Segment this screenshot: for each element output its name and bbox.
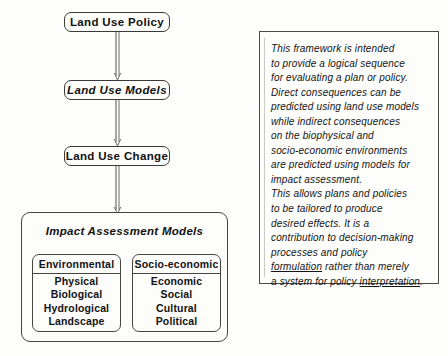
category-box-socio-economic: Socio-economic Economic Social Cultural …	[132, 254, 221, 332]
category-item: Cultural	[156, 302, 197, 315]
note-line: Direct consequences can be	[271, 86, 433, 101]
flow-node-land-use-policy: Land Use Policy	[64, 12, 170, 32]
impact-assessment-models-title: Impact Assessment Models	[22, 225, 227, 237]
flow-node-label: Land Use Policy	[70, 16, 164, 28]
category-item: Economic	[151, 275, 202, 288]
connector-change-to-impact	[106, 166, 128, 216]
connector-policy-to-models	[106, 32, 128, 82]
category-items-environmental: Physical Biological Hydrological Landsca…	[33, 274, 120, 331]
note-line: socio-economic environments	[271, 144, 433, 159]
category-items-socio-economic: Economic Social Cultural Political	[133, 274, 220, 331]
note-line: to provide a logical sequence	[271, 57, 433, 72]
category-item: Hydrological	[44, 302, 109, 315]
category-item: Landscape	[48, 315, 104, 328]
flow-node-label: Land Use Change	[66, 150, 168, 162]
note-line: processes and policy	[271, 246, 433, 261]
category-header-environmental: Environmental	[33, 255, 120, 274]
note-line: impact assessment.	[271, 173, 433, 188]
note-line: for evaluating a plan or policy.	[271, 71, 433, 86]
note-line-tail: .	[420, 276, 423, 287]
category-item: Social	[161, 288, 193, 301]
note-emphasis-formulation: formulation	[271, 261, 322, 272]
note-line-head: a system for policy	[271, 276, 360, 287]
diagram-canvas: Land Use Policy Land Use Models Land Use…	[0, 0, 448, 356]
flow-node-land-use-models: Land Use Models	[64, 80, 170, 100]
note-emphasis-interpretation: interpretation	[360, 276, 420, 287]
note-line: This allows plans and policies	[271, 187, 433, 202]
note-line-interpretation: a system for policy interpretation.	[271, 275, 433, 290]
impact-assessment-models-group: Impact Assessment Models Environmental P…	[21, 212, 228, 342]
note-panel-inner-rule	[264, 38, 265, 277]
note-line: on the biophysical and	[271, 129, 433, 144]
note-line-tail: rather than merely	[322, 261, 409, 272]
note-line: contribution to decision-making	[271, 231, 433, 246]
explanatory-note-panel: This framework is intended to provide a …	[259, 31, 439, 284]
note-line: to be tailored to produce	[271, 202, 433, 217]
category-item: Biological	[51, 288, 103, 301]
category-header-socio-economic: Socio-economic	[133, 255, 220, 274]
connector-models-to-change	[106, 100, 128, 148]
category-item: Physical	[55, 275, 99, 288]
explanatory-note-text: This framework is intended to provide a …	[271, 42, 433, 289]
flow-node-land-use-change: Land Use Change	[64, 146, 170, 166]
note-line: while indirect consequences	[271, 115, 433, 130]
note-line: are predicted using models for	[271, 158, 433, 173]
category-item: Political	[156, 315, 198, 328]
note-line: predicted using land use models	[271, 100, 433, 115]
note-line: This framework is intended	[271, 42, 433, 57]
category-box-environmental: Environmental Physical Biological Hydrol…	[32, 254, 121, 332]
note-line-formulation: formulation rather than merely	[271, 260, 433, 275]
note-line: desired effects. It is a	[271, 217, 433, 232]
flow-node-label: Land Use Models	[67, 84, 167, 96]
